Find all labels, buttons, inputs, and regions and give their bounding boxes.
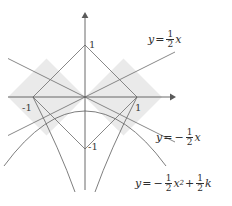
eq2-denominator: 2	[186, 137, 194, 147]
tick-label-x-positive-one: 1	[135, 103, 141, 113]
eq1-variable: x	[175, 34, 181, 45]
eq3-equals: =	[142, 178, 151, 189]
eq3-variable-second: k	[205, 178, 212, 189]
eq3-denominator-second: 2	[196, 183, 204, 193]
equation-label-line-positive: y = 1 2 x	[148, 30, 181, 50]
eq3-denominator-first: 2	[165, 183, 173, 193]
eq3-lhs: y	[135, 178, 141, 189]
eq1-lhs: y	[148, 34, 154, 45]
eq2-equals: =	[163, 132, 172, 143]
equation-label-parabola: y = − 1 2 x 2 + 1 2 k	[135, 174, 212, 194]
y-axis-arrow-icon	[82, 12, 89, 18]
eq3-fraction-second: 1 2	[196, 174, 204, 194]
eq3-exponent: 2	[180, 180, 184, 187]
tick-label-y-negative-one: -1	[88, 142, 98, 152]
eq3-plus: +	[185, 178, 194, 189]
eq2-numerator: 1	[186, 128, 194, 137]
eq1-equals: =	[155, 34, 164, 45]
tick-label-y-positive-one: 1	[89, 40, 95, 50]
eq2-sign: −	[174, 132, 183, 143]
eq3-sign: −	[153, 178, 162, 189]
eq1-fraction: 1 2	[166, 30, 174, 50]
x-axis-arrow-icon	[170, 94, 176, 101]
eq2-lhs: y	[156, 132, 162, 143]
eq2-variable: x	[194, 132, 200, 143]
eq3-numerator-first: 1	[165, 174, 173, 183]
eq3-fraction-first: 1 2	[165, 174, 173, 194]
eq1-numerator: 1	[166, 30, 174, 39]
eq3-numerator-second: 1	[196, 174, 204, 183]
equation-label-line-negative: y = − 1 2 x	[156, 128, 201, 148]
eq2-fraction: 1 2	[186, 128, 194, 148]
math-figure: -1 1 1 -1 y = 1 2 x y = − 1 2 x y = − 1 …	[0, 0, 232, 206]
eq1-denominator: 2	[166, 39, 174, 49]
tick-label-x-negative-one: -1	[22, 103, 32, 113]
